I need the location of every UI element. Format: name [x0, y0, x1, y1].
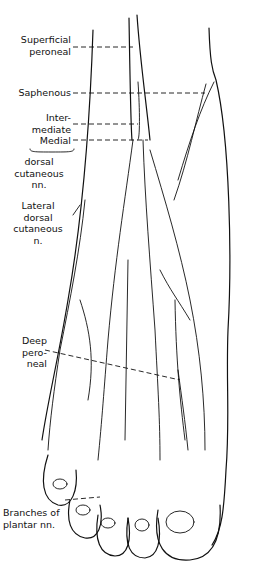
label-medial: Medial [5, 135, 71, 147]
foot-nerve-diagram: Superficial peroneal Saphenous Inter- me… [0, 0, 254, 565]
label-intermediate: Inter- mediate [5, 112, 71, 135]
foot-outline-illustration [0, 0, 254, 565]
label-branches-of-plantar: Branches of plantar nn. [3, 507, 67, 530]
label-lateral-dorsal-cutaneous: Lateral dorsal cutaneous n. [5, 200, 71, 246]
label-deep-peroneal: Deep pero- neal [5, 335, 47, 370]
label-superficial-peroneal: Superficial peroneal [5, 34, 71, 57]
label-saphenous: Saphenous [5, 87, 71, 99]
label-dorsal-cutaneous-nn: dorsal cutaneous nn. [5, 156, 73, 191]
